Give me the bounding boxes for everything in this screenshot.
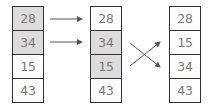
arrows	[0, 0, 212, 109]
swap-arrow-up-icon	[130, 42, 160, 66]
swap-arrow-down-icon	[130, 43, 160, 67]
